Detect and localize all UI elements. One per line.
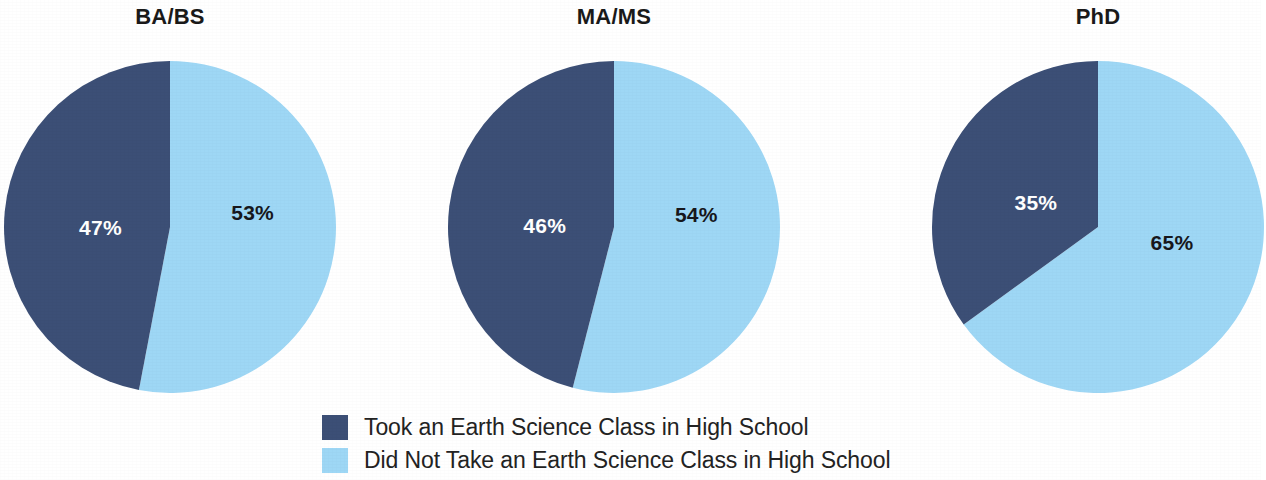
legend-swatch-did-not-take	[322, 448, 348, 473]
slice-label-ba-bs-took: 47%	[79, 216, 122, 240]
slice-label-ma-ms-did-not-take: 54%	[675, 203, 718, 227]
pie-chart-ma-ms	[446, 59, 782, 395]
pie-title-phd: PhD	[1076, 4, 1121, 30]
legend-label-took: Took an Earth Science Class in High Scho…	[364, 416, 809, 439]
pie-chart-ba-bs	[2, 59, 338, 395]
slice-label-ma-ms-took: 46%	[523, 214, 566, 238]
pie-svg-ba-bs	[2, 59, 338, 395]
legend-label-did-not-take: Did Not Take an Earth Science Class in H…	[364, 449, 890, 472]
slice-label-phd-did-not-take: 65%	[1150, 231, 1193, 255]
legend-item-took: Took an Earth Science Class in High Scho…	[322, 411, 890, 444]
pie-title-ba-bs: BA/BS	[135, 4, 204, 30]
pie-title-ma-ms: MA/MS	[577, 4, 651, 30]
chart-legend: Took an Earth Science Class in High Scho…	[322, 411, 890, 477]
pie-svg-ma-ms	[446, 59, 782, 395]
legend-item-did-not-take: Did Not Take an Earth Science Class in H…	[322, 444, 890, 477]
pie-chart-phd	[930, 59, 1266, 395]
slice-label-ba-bs-did-not-take: 53%	[231, 201, 274, 225]
slice-label-phd-took: 35%	[1014, 191, 1057, 215]
legend-swatch-took	[322, 415, 348, 440]
pie-svg-phd	[930, 59, 1266, 395]
